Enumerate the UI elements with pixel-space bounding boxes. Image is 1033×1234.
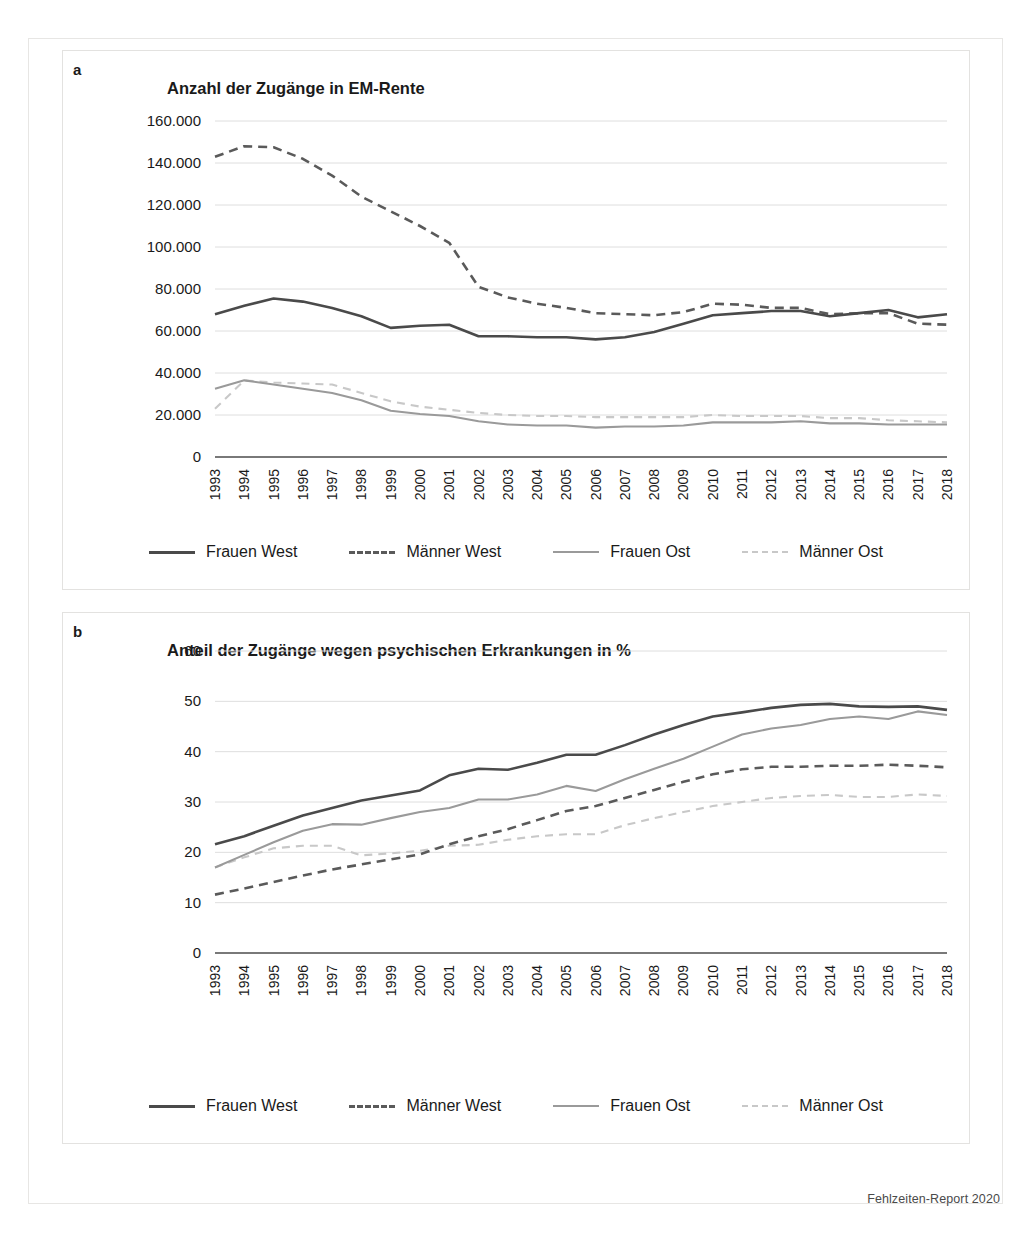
x-axis-tick-label: 2005: [558, 965, 574, 996]
x-axis-tick-label: 1998: [353, 469, 369, 500]
legend-item[interactable]: Frauen West: [149, 543, 297, 561]
x-axis-tick-label: 1995: [266, 965, 282, 996]
y-axis-tick-label: 60.000: [155, 322, 201, 339]
legend-item[interactable]: Männer Ost: [742, 543, 883, 561]
y-axis-tick-label: 140.000: [147, 154, 201, 171]
legend-label: Frauen West: [206, 1097, 297, 1115]
legend-item[interactable]: Männer West: [349, 543, 501, 561]
x-axis-tick-label: 2006: [588, 965, 604, 996]
legend-swatch-icon: [742, 551, 788, 553]
legend-label: Frauen Ost: [610, 1097, 690, 1115]
x-axis-tick-label: 1995: [266, 469, 282, 500]
x-axis-tick-label: 2001: [441, 469, 457, 500]
x-axis-tick-label: 1996: [295, 965, 311, 996]
chart-legend-b: Frauen WestMänner WestFrauen OstMänner O…: [63, 1097, 969, 1115]
x-axis-tick-label: 2003: [500, 469, 516, 500]
x-axis-tick-label: 2013: [793, 469, 809, 500]
x-axis-tick-label: 1994: [236, 965, 252, 996]
series-line-m-nner-ost: [215, 380, 947, 422]
x-axis-tick-label: 2015: [851, 965, 867, 996]
legend-label: Frauen West: [206, 543, 297, 561]
legend-item[interactable]: Männer West: [349, 1097, 501, 1115]
x-axis-tick-label: 2004: [529, 965, 545, 996]
line-chart-a: 020.00040.00060.00080.000100.000120.0001…: [63, 51, 971, 521]
x-axis-tick-label: 1994: [236, 469, 252, 500]
x-axis-tick-label: 1998: [353, 965, 369, 996]
y-axis-tick-label: 100.000: [147, 238, 201, 255]
legend-item[interactable]: Frauen Ost: [553, 543, 690, 561]
x-axis-tick-label: 2000: [412, 469, 428, 500]
series-line-frauen-ost: [215, 711, 947, 867]
x-axis-tick-label: 2007: [617, 965, 633, 996]
x-axis-tick-label: 1999: [383, 469, 399, 500]
series-line-m-nner-ost: [215, 794, 947, 867]
legend-label: Frauen Ost: [610, 543, 690, 561]
x-axis-tick-label: 2012: [763, 965, 779, 996]
x-axis-tick-label: 2007: [617, 469, 633, 500]
x-axis-tick-label: 2000: [412, 965, 428, 996]
legend-item[interactable]: Frauen West: [149, 1097, 297, 1115]
x-axis-tick-label: 2006: [588, 469, 604, 500]
x-axis-tick-label: 2003: [500, 965, 516, 996]
legend-swatch-icon: [349, 551, 395, 554]
x-axis-tick-label: 2015: [851, 469, 867, 500]
legend-swatch-icon: [149, 551, 195, 554]
y-axis-tick-label: 30: [184, 793, 201, 810]
x-axis-tick-label: 2009: [675, 469, 691, 500]
x-axis-tick-label: 2004: [529, 469, 545, 500]
x-axis-tick-label: 2002: [471, 965, 487, 996]
legend-swatch-icon: [349, 1105, 395, 1108]
x-axis-tick-label: 2014: [822, 469, 838, 500]
y-axis-tick-label: 40.000: [155, 364, 201, 381]
series-line-m-nner-west: [215, 146, 947, 325]
y-axis-tick-label: 160.000: [147, 112, 201, 129]
x-axis-tick-label: 2008: [646, 469, 662, 500]
legend-swatch-icon: [742, 1105, 788, 1107]
legend-label: Männer Ost: [799, 543, 883, 561]
x-axis-tick-label: 1993: [207, 965, 223, 996]
series-line-m-nner-west: [215, 765, 947, 895]
y-axis-tick-label: 0: [193, 944, 201, 961]
x-axis-tick-label: 2016: [880, 965, 896, 996]
y-axis-tick-label: 0: [193, 448, 201, 465]
x-axis-tick-label: 2018: [939, 469, 955, 500]
x-axis-tick-label: 2017: [910, 469, 926, 500]
chart-legend-a: Frauen WestMänner WestFrauen OstMänner O…: [63, 543, 969, 561]
chart-panel-a: a Anzahl der Zugänge in EM-Rente 020.000…: [62, 50, 970, 590]
x-axis-tick-label: 2014: [822, 965, 838, 996]
y-axis-tick-label: 50: [184, 692, 201, 709]
x-axis-tick-label: 1999: [383, 965, 399, 996]
x-axis-tick-label: 1997: [324, 965, 340, 996]
x-axis-tick-label: 2002: [471, 469, 487, 500]
y-axis-tick-label: 80.000: [155, 280, 201, 297]
y-axis-tick-label: 120.000: [147, 196, 201, 213]
x-axis-tick-label: 2005: [558, 469, 574, 500]
x-axis-tick-label: 1997: [324, 469, 340, 500]
y-axis-tick-label: 10: [184, 894, 201, 911]
y-axis-tick-label: 20.000: [155, 406, 201, 423]
x-axis-tick-label: 1996: [295, 469, 311, 500]
legend-label: Männer West: [406, 543, 501, 561]
legend-swatch-icon: [149, 1105, 195, 1108]
legend-item[interactable]: Männer Ost: [742, 1097, 883, 1115]
legend-label: Männer Ost: [799, 1097, 883, 1115]
y-axis-tick-label: 60: [184, 642, 201, 659]
x-axis-tick-label: 2012: [763, 469, 779, 500]
x-axis-tick-label: 2011: [734, 965, 750, 995]
legend-item[interactable]: Frauen Ost: [553, 1097, 690, 1115]
x-axis-tick-label: 2010: [705, 965, 721, 996]
x-axis-tick-label: 2018: [939, 965, 955, 996]
chart-panel-b: b Anteil der Zugänge wegen psychischen E…: [62, 612, 970, 1144]
x-axis-tick-label: 2011: [734, 469, 750, 499]
y-axis-tick-label: 20: [184, 843, 201, 860]
x-axis-tick-label: 2013: [793, 965, 809, 996]
x-axis-tick-label: 2016: [880, 469, 896, 500]
source-note: Fehlzeiten-Report 2020: [867, 1192, 1000, 1206]
legend-swatch-icon: [553, 551, 599, 553]
x-axis-tick-label: 2009: [675, 965, 691, 996]
line-chart-b: 0102030405060199319941995199619971998199…: [63, 613, 971, 1073]
series-line-frauen-west: [215, 704, 947, 844]
x-axis-tick-label: 1993: [207, 469, 223, 500]
series-line-frauen-ost: [215, 380, 947, 427]
x-axis-tick-label: 2010: [705, 469, 721, 500]
